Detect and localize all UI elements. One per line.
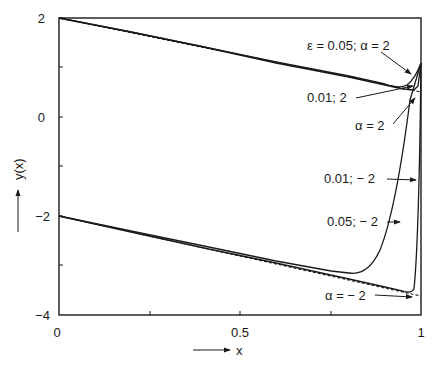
- annotation-eps-0.05-alpha-2: ε = 0.05; α = 2: [307, 38, 390, 53]
- y-tick-label: 2: [38, 11, 45, 26]
- annotation-eps-0.01-alpha-2: 0.01; 2: [307, 90, 347, 105]
- y-tick-label: −2: [35, 209, 50, 224]
- x-tick-label: 0.5: [231, 325, 249, 340]
- chart: 2 0 −2 −4 0 0.5 1 y(x) x ε = 0.05; α = 2…: [0, 0, 438, 366]
- annotation-alpha-neg2-outer: α = − 2: [325, 288, 366, 303]
- leader-arrow-icon: [393, 98, 415, 124]
- leader-arrow-icon: [387, 179, 416, 180]
- leader-arrow-icon: [375, 295, 412, 297]
- curve-eps-0.05-alpha-2-neg: [59, 63, 421, 273]
- y-axis-label: y(x): [11, 158, 26, 180]
- x-tick-label: 1: [417, 325, 424, 340]
- y-tick-label: 0: [38, 110, 45, 125]
- annotation-eps-0.05-alpha-neg2: 0.05; − 2: [327, 214, 378, 229]
- annotation-alpha-2-outer: α = 2: [355, 118, 385, 133]
- plot-frame: [59, 18, 421, 315]
- annotation-eps-0.01-alpha-neg2: 0.01; − 2: [324, 171, 375, 186]
- x-axis-label: x: [236, 343, 243, 358]
- x-tick-label: 0: [53, 325, 60, 340]
- y-tick-label: −4: [35, 308, 50, 323]
- leader-arrow-icon: [356, 86, 413, 98]
- leader-arrow-icon: [381, 52, 411, 74]
